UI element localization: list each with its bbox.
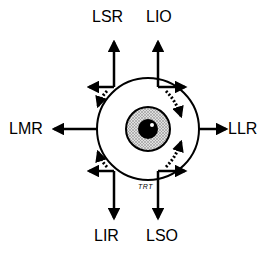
label-lsr: LSR (92, 9, 123, 25)
pupil-highlight (150, 123, 154, 127)
label-lio: LIO (146, 9, 172, 25)
annotation-trt: TRT (138, 183, 153, 190)
eye-muscle-diagram: LSR LIO LMR LLR LIR LSO TRT (0, 0, 279, 256)
label-lmr: LMR (9, 121, 43, 137)
pupil (138, 119, 158, 139)
label-lso: LSO (146, 228, 178, 244)
label-llr: LLR (228, 121, 257, 137)
label-lir: LIR (94, 228, 119, 244)
